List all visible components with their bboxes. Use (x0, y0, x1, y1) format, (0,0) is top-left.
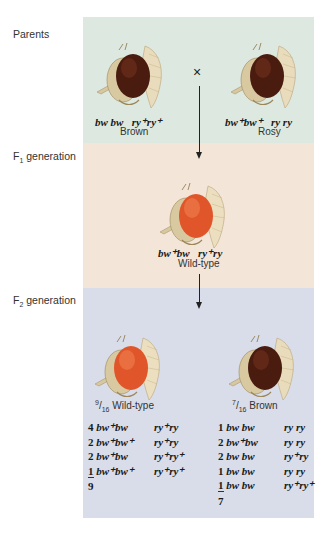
cross-symbol: × (193, 64, 201, 80)
arrow-head-icon (196, 302, 202, 309)
f1-phenotype: Wild-type (178, 258, 220, 269)
f2-wild-type-fly-icon (91, 332, 171, 404)
f2-brown-eyed-fly-icon (225, 332, 305, 404)
table-row: 2 bw bwry⁺ry (218, 449, 314, 464)
f2-left-fraction-label: 9/16 Wild-type (95, 399, 154, 413)
f2-right-fraction-label: 7/16 Brown (232, 399, 278, 413)
table-row: 1 bw bwry ry (218, 464, 314, 479)
f2-brown-genotype-table: 1 bw bwry ry 2 bw⁺bwry ry 2 bw bwry⁺ry 1… (218, 420, 314, 508)
f1-generation-label: F1 generation (13, 150, 76, 164)
table-row: 2 bw⁺bwry⁺ry⁺ (88, 449, 184, 464)
parent-right-phenotype: Rosy (258, 126, 281, 137)
f2-generation-label: F2 generation (13, 294, 76, 308)
wild-type-fly-icon (156, 180, 236, 252)
table-total: 9 (88, 479, 184, 494)
table-total: 7 (218, 494, 314, 509)
arrow-head-icon (196, 152, 202, 159)
rosy-eyed-fly-icon (227, 40, 307, 112)
parent-left-phenotype: Brown (120, 126, 148, 137)
table-row: 2 bw⁺bw⁺ry⁺ry (88, 435, 184, 450)
arrow-to-f2 (199, 274, 200, 302)
f2-wild-type-genotype-table: 4 bw⁺bwry⁺ry 2 bw⁺bw⁺ry⁺ry 2 bw⁺bwry⁺ry⁺… (88, 420, 184, 494)
table-row: 1 bw bwry⁺ry⁺ (218, 478, 314, 493)
brown-eyed-fly-icon (93, 40, 173, 112)
table-row: 4 bw⁺bwry⁺ry (88, 420, 184, 435)
arrow-to-f1 (199, 86, 200, 152)
table-row: 1 bw bwry ry (218, 420, 314, 435)
table-row: 1 bw⁺bw⁺ry⁺ry⁺ (88, 464, 184, 479)
table-row: 2 bw⁺bwry ry (218, 435, 314, 450)
parents-label: Parents (13, 28, 49, 40)
